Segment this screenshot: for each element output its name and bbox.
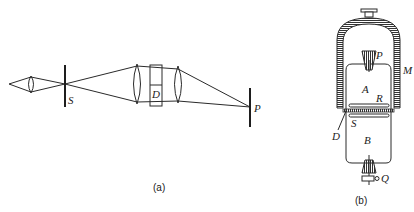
diaphragm-d [343,109,394,112]
rays-source [9,66,250,107]
figure-a-optical-setup: S D P (a) [9,64,261,193]
diagram-canvas: S D P (a) M [0,0,414,212]
caption-a: (a) [153,182,165,193]
label-slit-s: S [68,94,74,106]
plate-r [349,104,389,107]
label-diaphragm-d: D [331,130,340,142]
lens-2-icon [134,64,141,104]
caption-b: (b) [355,195,367,206]
label-screen-p: P [253,102,261,114]
valve-q-icon [362,176,374,181]
label-plate-r: R [375,92,383,104]
lens-3-icon [175,66,182,103]
label-component-d: D [151,88,160,100]
label-lower-chamber-b: B [364,134,371,146]
label-valve-q: Q [381,172,389,184]
label-outer-shell-m: M [402,64,413,76]
label-plate-s: S [351,117,357,129]
label-upper-chamber-a: A [361,83,369,95]
top-knob-icon [361,9,377,17]
label-top-plug-p: P [375,49,383,61]
figure-b-apparatus: M P A R D S B Q (b) [331,9,413,206]
lens-1-icon [29,76,34,93]
